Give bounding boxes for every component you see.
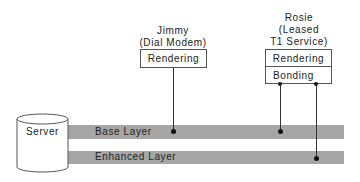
client-rosie-connection-line2: T1 Service) [256, 36, 342, 48]
jimmy-base-connector [173, 68, 174, 131]
rosie-bonding-module: Bonding [265, 66, 332, 84]
rosie-enhanced-connector [316, 84, 317, 158]
client-jimmy-connection: (Dial Modem) [130, 37, 216, 49]
jimmy-rendering-module: Rendering [140, 49, 207, 68]
jimmy-base-tap-dot [171, 129, 176, 134]
client-jimmy-name: Jimmy [130, 25, 216, 37]
rosie-base-tap-dot [278, 129, 283, 134]
server-label: Server [17, 126, 68, 137]
rosie-base-connector [280, 84, 281, 131]
rosie-rendering-label: Rendering [266, 53, 331, 64]
jimmy-rendering-label: Rendering [141, 53, 206, 64]
rosie-rendering-module: Rendering [265, 49, 332, 67]
client-rosie-connection-line1: (Leased [256, 24, 342, 36]
client-rosie-name: Rosie [256, 12, 342, 24]
rosie-bonding-label: Bonding [266, 70, 331, 81]
rosie-enhanced-tap-dot [314, 156, 319, 161]
